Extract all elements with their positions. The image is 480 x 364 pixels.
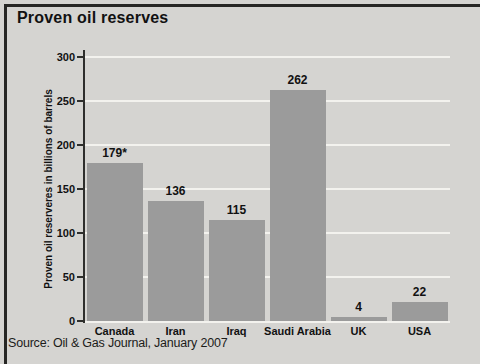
value-label-iran: 136 — [136, 184, 216, 198]
value-label-saudi-arabia: 262 — [258, 73, 338, 87]
figure-frame-top — [4, 4, 480, 7]
y-tick-label-300: 300 — [40, 51, 75, 63]
y-axis-line — [83, 50, 85, 323]
y-tick-label-50: 50 — [40, 271, 75, 283]
figure-frame-left — [4, 4, 7, 364]
x-axis-baseline — [84, 321, 450, 323]
bar-saudi-arabia — [270, 90, 326, 321]
chart-title: Proven oil reserves — [17, 9, 168, 27]
y-tick-label-150: 150 — [40, 183, 75, 195]
y-tick-100 — [77, 232, 84, 234]
y-tick-label-0: 0 — [40, 315, 75, 327]
y-tick-200 — [77, 144, 84, 146]
y-tick-250 — [77, 100, 84, 102]
bar-iraq — [209, 220, 265, 321]
y-tick-label-100: 100 — [40, 227, 75, 239]
source-note: Source: Oil & Gas Journal, January 2007 — [8, 336, 227, 350]
y-tick-50 — [77, 276, 84, 278]
value-label-uk: 4 — [319, 300, 399, 314]
category-label-usa: USA — [375, 325, 465, 337]
bar-usa — [392, 302, 448, 321]
value-label-usa: 22 — [380, 285, 460, 299]
bar-canada — [87, 163, 143, 321]
y-tick-150 — [77, 188, 84, 190]
bar-iran — [148, 201, 204, 321]
oil-reserves-figure: Proven oil reserves Proven oil reservere… — [0, 0, 480, 364]
y-tick-0 — [77, 320, 84, 322]
y-tick-label-200: 200 — [40, 139, 75, 151]
gridline-250 — [84, 100, 450, 102]
y-tick-label-250: 250 — [40, 95, 75, 107]
value-label-canada: 179* — [75, 146, 155, 160]
value-label-iraq: 115 — [197, 203, 277, 217]
y-tick-300 — [77, 56, 84, 58]
gridline-300 — [84, 56, 450, 58]
